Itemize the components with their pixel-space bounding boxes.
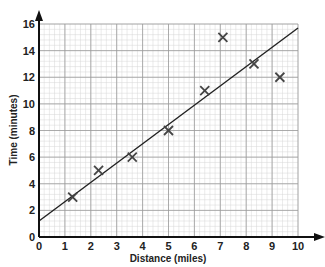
x-marker <box>94 166 103 175</box>
x-axis-title: Distance (miles) <box>130 253 207 264</box>
x-marker <box>68 193 77 202</box>
y-tick-label: 6 <box>29 151 35 163</box>
x-tick-label: 10 <box>292 240 304 252</box>
x-tick-label: 2 <box>88 240 94 252</box>
y-axis-title: Time (minutes) <box>8 95 19 166</box>
x-tick-label: 5 <box>165 240 171 252</box>
x-tick-label: 8 <box>243 240 249 252</box>
scatter-chart: 012345678910 0246810121416 Distance (mil… <box>0 0 325 267</box>
y-axis-arrow-icon <box>35 10 43 21</box>
y-tick-label: 14 <box>23 45 36 57</box>
y-tick-label: 2 <box>29 204 35 216</box>
x-tick-label: 6 <box>191 240 197 252</box>
axes <box>35 10 325 241</box>
y-tick-label: 10 <box>23 98 35 110</box>
x-tick-label: 9 <box>269 240 275 252</box>
x-tick-label: 1 <box>62 240 68 252</box>
x-marker <box>218 33 227 42</box>
x-tick-labels: 012345678910 <box>36 240 304 252</box>
x-tick-label: 3 <box>114 240 120 252</box>
y-tick-label: 12 <box>23 71 35 83</box>
x-tick-label: 7 <box>217 240 223 252</box>
x-tick-label: 4 <box>140 240 147 252</box>
y-tick-label: 16 <box>23 18 35 30</box>
x-tick-label: 0 <box>36 240 42 252</box>
y-tick-labels: 0246810121416 <box>23 18 36 243</box>
y-tick-label: 0 <box>29 231 35 243</box>
data-markers <box>68 33 284 202</box>
y-tick-label: 4 <box>29 178 36 190</box>
x-axis-arrow-icon <box>314 233 325 241</box>
y-tick-label: 8 <box>29 125 35 137</box>
